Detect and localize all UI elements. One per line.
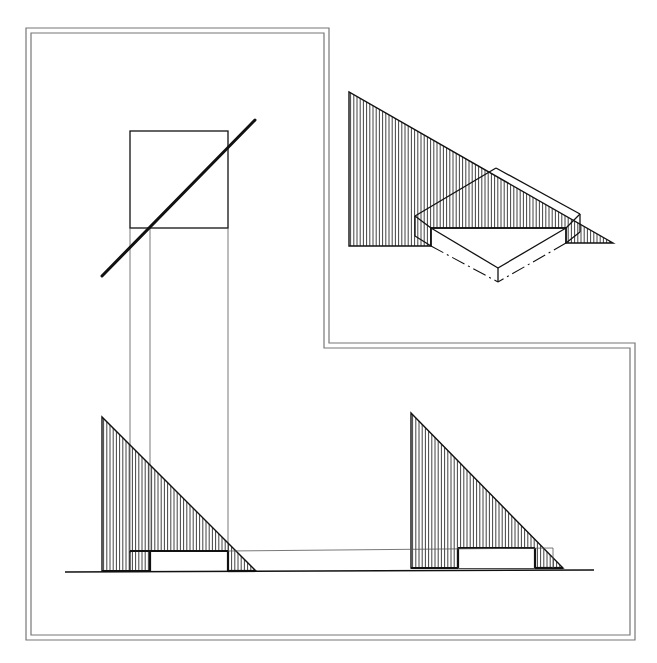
- plan-square: [130, 131, 228, 228]
- technical-drawing: [0, 0, 657, 663]
- block-edge: [496, 168, 580, 214]
- projection-lines: [130, 228, 228, 553]
- drawing-canvas: [0, 0, 657, 663]
- block-elevation-left: [102, 551, 256, 571]
- shadow-triangle-left: [102, 417, 256, 571]
- elevation-right: [411, 413, 563, 568]
- shadow-triangle-right: [411, 413, 563, 568]
- block-face: [150, 551, 228, 571]
- elevation-left: [102, 417, 256, 571]
- light-ray-line: [102, 120, 255, 276]
- block-face: [458, 548, 535, 568]
- plan-view: [102, 120, 255, 553]
- isometric-view: [349, 92, 613, 282]
